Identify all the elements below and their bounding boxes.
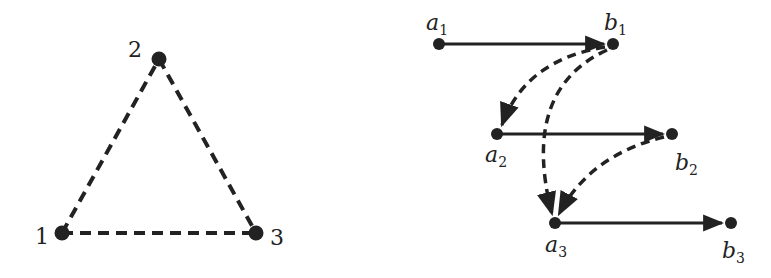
node-b1-label: b1 (604, 10, 627, 38)
triangle-graph: 1 2 3 (35, 37, 284, 250)
node-3-label: 3 (270, 225, 284, 250)
node-b3-label: b3 (722, 238, 745, 266)
node-b3 (725, 217, 737, 229)
edge-b1-a3 (543, 50, 607, 214)
node-a2 (491, 128, 503, 140)
node-a2-label: a2 (485, 142, 507, 170)
edge-b2-a3 (559, 137, 664, 214)
node-b2-label: b2 (675, 150, 698, 178)
node-1 (55, 226, 70, 241)
node-1-label: 1 (35, 224, 49, 249)
node-2-label: 2 (128, 37, 142, 62)
node-a3-label: a3 (545, 232, 567, 260)
node-a3 (549, 217, 561, 229)
node-a1-label: a1 (426, 10, 448, 38)
node-3 (249, 226, 264, 241)
diagram-canvas: 1 2 3 a1 b1 a2 b2 a3 (0, 0, 771, 278)
directed-graph: a1 b1 a2 b2 a3 b3 (426, 10, 745, 266)
node-2 (152, 52, 167, 67)
edge-1-2 (62, 59, 159, 233)
node-a1 (433, 38, 445, 50)
edge-2-3 (159, 59, 256, 233)
node-b2 (666, 128, 678, 140)
node-b1 (607, 38, 619, 50)
